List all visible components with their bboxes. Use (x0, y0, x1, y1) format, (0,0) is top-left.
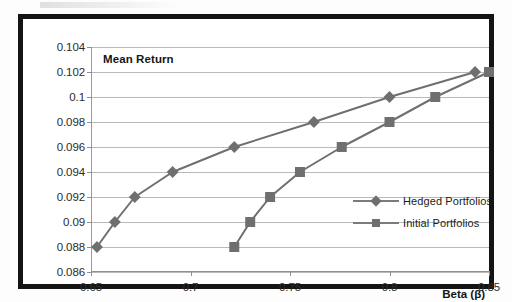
y-axis-title: Mean Return (103, 53, 174, 65)
legend-label-hedged: Hedged Portfolios (403, 195, 492, 207)
data-point-diamond (308, 116, 320, 128)
y-tick-label: 0.102 (57, 66, 85, 78)
plot-area: 0.0860.0880.090.0920.0940.0960.0980.10.1… (91, 47, 489, 272)
diamond-marker-icon (353, 195, 399, 207)
data-point-square (229, 242, 239, 252)
data-point-square (484, 67, 494, 77)
legend-item-initial: Initial Portfolios (353, 212, 503, 234)
data-point-square (295, 167, 305, 177)
y-tick-label: 0.092 (57, 191, 85, 203)
x-tick-mark (489, 271, 490, 276)
y-tick-label: 0.086 (57, 266, 85, 278)
x-tick-label: 0.7 (183, 281, 199, 293)
chart-legend: Hedged Portfolios Initial Portfolios (353, 190, 503, 234)
y-tick-label: 0.104 (57, 41, 85, 53)
data-point-square (337, 142, 347, 152)
y-tick-label: 0.1 (69, 91, 85, 103)
square-marker-icon (353, 217, 399, 229)
scan-artifact (40, 2, 240, 8)
chart-frame-border: 0.0860.0880.090.0920.0940.0960.0980.10.1… (18, 14, 494, 289)
data-point-diamond (228, 141, 240, 153)
data-point-square (385, 117, 395, 127)
series-layer (91, 47, 489, 272)
x-tick-label: 0.75 (279, 281, 301, 293)
data-point-square (265, 192, 275, 202)
y-tick-label: 0.09 (63, 216, 85, 228)
legend-label-initial: Initial Portfolios (403, 217, 479, 229)
chart-page: 0.0860.0880.090.0920.0940.0960.0980.10.1… (0, 0, 512, 302)
x-tick-label: 0.8 (382, 281, 398, 293)
y-tick-label: 0.088 (57, 241, 85, 253)
data-point-diamond (384, 91, 396, 103)
x-axis-title: Beta (β) (442, 288, 485, 300)
data-point-diamond (167, 166, 179, 178)
data-point-square (430, 92, 440, 102)
x-tick-label: 0.65 (80, 281, 102, 293)
legend-item-hedged: Hedged Portfolios (353, 190, 503, 212)
y-tick-label: 0.096 (57, 141, 85, 153)
y-tick-label: 0.094 (57, 166, 85, 178)
y-tick-label: 0.098 (57, 116, 85, 128)
data-point-square (245, 217, 255, 227)
